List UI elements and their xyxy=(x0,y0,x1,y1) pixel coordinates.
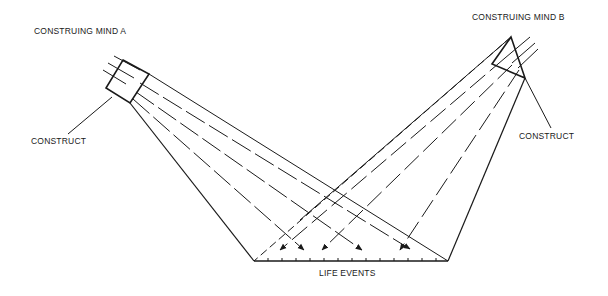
projection-arrow-b xyxy=(322,65,512,250)
construct-b-triangle xyxy=(492,37,525,78)
construing-diagram xyxy=(0,0,608,296)
construing-mind-b-label: CONSTRUING MIND B xyxy=(472,12,565,22)
construct-b-pointer xyxy=(525,78,551,128)
incoming-line xyxy=(103,70,126,84)
field-boundary-b-bottom xyxy=(448,78,525,261)
incoming-line xyxy=(518,49,538,68)
life-events-label: LIFE EVENTS xyxy=(319,268,376,278)
field-boundary-a-top xyxy=(149,74,448,261)
projection-arrow-a xyxy=(136,92,362,250)
construct-a-label: CONSTRUCT xyxy=(31,136,86,146)
incoming-line xyxy=(512,43,535,63)
field-boundary-b-top-solid xyxy=(300,37,511,220)
projection-arrow-b xyxy=(280,58,505,250)
field-boundary-a-bottom xyxy=(130,103,254,261)
construct-a-pointer xyxy=(68,97,112,134)
projection-arrow-a xyxy=(133,99,304,250)
construct-b-label: CONSTRUCT xyxy=(519,131,574,141)
construing-mind-a-label: CONSTRUING MIND A xyxy=(34,26,126,36)
